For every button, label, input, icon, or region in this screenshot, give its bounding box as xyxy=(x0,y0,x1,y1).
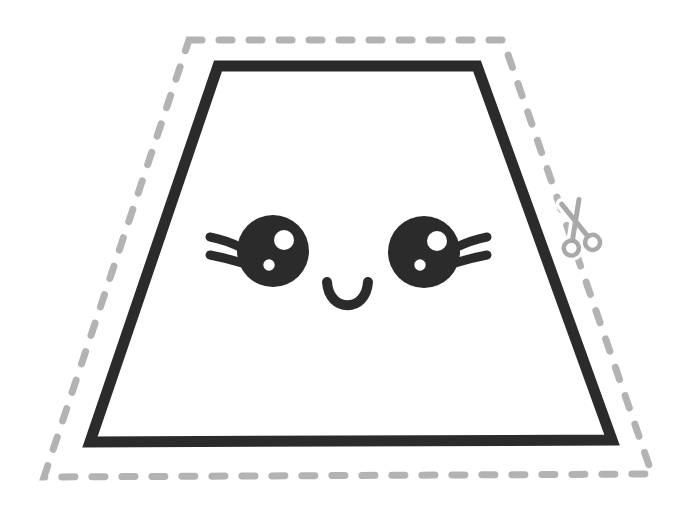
right-eye-small-highlight xyxy=(414,259,425,270)
template-canvas xyxy=(0,0,693,511)
trapezoid-cutout-template xyxy=(0,0,693,511)
left-eye-ball xyxy=(237,215,309,287)
right-eye-big-highlight xyxy=(427,231,447,251)
scissors-icon xyxy=(552,197,601,257)
left-eye-big-highlight xyxy=(274,230,294,250)
right-eye-ball xyxy=(388,216,460,288)
left-eye-small-highlight xyxy=(263,259,274,270)
